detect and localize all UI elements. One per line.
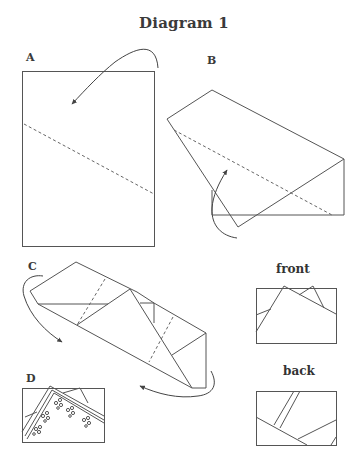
panel-b [167,90,344,238]
fold-arrow-icon [212,170,237,238]
wrap-arrow-icon [140,371,214,397]
diagram-drawing [0,0,356,473]
fold-arrow-icon [72,49,158,104]
front-view [256,286,337,344]
panel-c [23,262,214,397]
fold-line-dashed [24,124,154,194]
crease-line-dotted [77,279,105,325]
panel-d [22,386,105,443]
crease-line-dotted [149,317,173,362]
folded-sheet-outline [167,90,344,215]
panel-a [23,49,159,246]
back-view [256,391,337,446]
wrap-arrow-icon [23,276,62,342]
fold-line-dashed [174,130,332,215]
